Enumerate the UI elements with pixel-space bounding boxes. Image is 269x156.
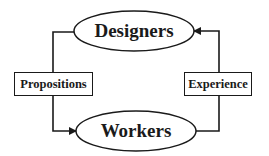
propositions-label-box: Propositions <box>14 72 93 96</box>
experience-label-box: Experience <box>184 72 252 96</box>
designers-node: Designers <box>74 11 194 51</box>
workers-node: Workers <box>76 111 196 151</box>
